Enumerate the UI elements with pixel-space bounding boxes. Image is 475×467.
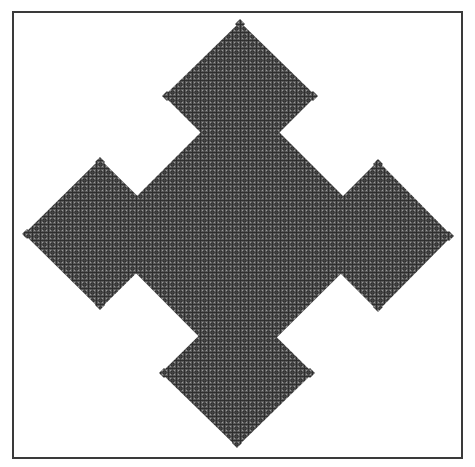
- fractal-svg: [0, 0, 475, 467]
- fractal-shapes: [22, 19, 454, 448]
- fractal-figure: Fractal of nested rotated squares (diamo…: [0, 0, 475, 467]
